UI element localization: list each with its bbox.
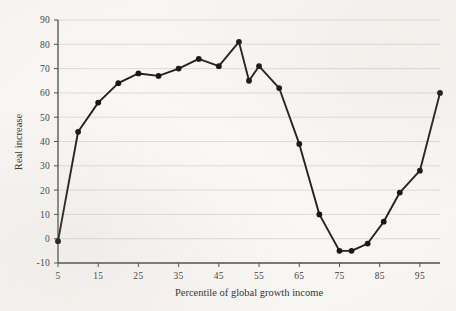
data-point	[337, 248, 343, 254]
x-tick-label: 75	[334, 271, 344, 281]
data-point	[365, 241, 371, 247]
data-point	[276, 85, 282, 91]
y-tick-label: 90	[40, 15, 50, 25]
data-point	[381, 219, 387, 225]
x-tick-label: 85	[375, 271, 385, 281]
data-point	[115, 80, 121, 86]
data-point	[437, 90, 443, 96]
x-tick-label: 65	[294, 271, 304, 281]
x-tick-label: 35	[174, 271, 184, 281]
y-tick-label: 0	[45, 234, 50, 244]
y-tick-label: 20	[40, 186, 50, 196]
data-point	[196, 56, 202, 62]
y-tick-group: -100102030405060708090	[36, 15, 58, 268]
data-point	[349, 248, 355, 254]
data-point	[316, 212, 322, 218]
y-axis-title: Real increase	[13, 114, 24, 171]
y-tick-label: 50	[40, 113, 50, 123]
x-tick-label: 5	[55, 271, 60, 281]
x-tick-label: 25	[133, 271, 143, 281]
data-point	[397, 190, 403, 196]
y-tick-label: 80	[40, 40, 50, 50]
x-tick-group: 5152535455565758595	[55, 263, 424, 281]
data-point	[296, 141, 302, 147]
data-point	[417, 168, 423, 174]
x-tick-label: 55	[254, 271, 264, 281]
data-point	[216, 63, 222, 69]
gridlines-group	[58, 20, 440, 239]
data-point	[95, 100, 101, 106]
chart-container: -100102030405060708090 51525354555657585…	[0, 0, 456, 311]
data-point	[246, 78, 252, 84]
y-tick-label: -10	[36, 258, 50, 268]
x-tick-label: 45	[214, 271, 224, 281]
elephant-curve-chart: -100102030405060708090 51525354555657585…	[0, 0, 456, 311]
data-point	[75, 129, 81, 135]
data-point	[136, 71, 142, 77]
data-point	[176, 66, 182, 72]
data-point	[55, 238, 61, 244]
x-axis-title: Percentile of global growth income	[175, 287, 323, 298]
y-tick-label: 70	[40, 64, 50, 74]
y-tick-label: 60	[40, 88, 50, 98]
data-point-group	[55, 39, 443, 254]
y-tick-label: 40	[40, 137, 50, 147]
x-tick-label: 95	[415, 271, 425, 281]
data-point	[256, 63, 262, 69]
data-point	[236, 39, 242, 45]
y-tick-label: 30	[40, 161, 50, 171]
y-tick-label: 10	[40, 210, 50, 220]
x-tick-label: 15	[93, 271, 103, 281]
data-point	[156, 73, 162, 79]
